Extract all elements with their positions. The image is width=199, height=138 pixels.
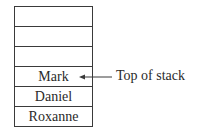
stack-diagram: Mark Daniel Roxanne bbox=[14, 6, 93, 127]
stack-cell-empty bbox=[15, 7, 92, 27]
arrow-left-icon bbox=[79, 71, 113, 83]
stack-cell: Roxanne bbox=[15, 107, 92, 127]
stack-cell-empty bbox=[15, 27, 92, 47]
top-of-stack-label: Top of stack bbox=[116, 68, 185, 84]
stack-cell: Daniel bbox=[15, 87, 92, 107]
stack-cell-empty bbox=[15, 47, 92, 67]
